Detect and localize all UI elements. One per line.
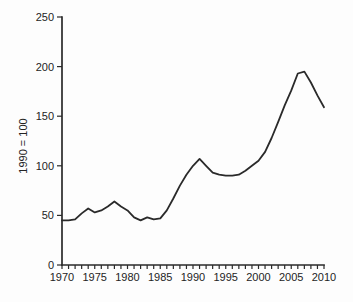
x-tick-label: 1975 xyxy=(83,271,107,283)
x-tick-label: 2005 xyxy=(279,271,303,283)
line-chart-canvas: 050100150200250 197019751980198519901995… xyxy=(0,0,353,302)
line-chart-figure: 050100150200250 197019751980198519901995… xyxy=(0,0,353,302)
y-tick-label: 100 xyxy=(36,160,54,172)
y-tick-label: 50 xyxy=(42,209,54,221)
x-tick-label: 1970 xyxy=(50,271,74,283)
y-tick-label: 200 xyxy=(36,61,54,73)
x-axis: 197019751980198519901995200020052010 xyxy=(50,265,336,283)
x-tick-label: 1990 xyxy=(181,271,205,283)
y-axis: 050100150200250 xyxy=(36,11,62,271)
y-tick-label: 0 xyxy=(48,259,54,271)
y-tick-label: 250 xyxy=(36,11,54,23)
data-series-line xyxy=(62,72,324,221)
x-tick-label: 2010 xyxy=(312,271,336,283)
y-axis-title: 1990 = 100 xyxy=(17,118,29,173)
x-tick-label: 2000 xyxy=(246,271,270,283)
y-tick-label: 150 xyxy=(36,110,54,122)
x-tick-label: 1995 xyxy=(214,271,238,283)
x-tick-label: 1980 xyxy=(115,271,139,283)
x-tick-label: 1985 xyxy=(148,271,172,283)
